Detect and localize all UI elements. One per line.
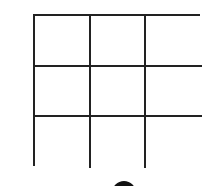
cell-2-1[interactable]: [91, 117, 146, 168]
cell-1-2[interactable]: [146, 67, 202, 117]
cell-1-0[interactable]: [35, 67, 91, 117]
cell-1-1[interactable]: [91, 67, 146, 117]
cell-2-0[interactable]: [35, 117, 91, 168]
cell-0-1[interactable]: [91, 16, 146, 67]
cell-0-0[interactable]: [35, 16, 91, 67]
game-board: [33, 14, 200, 166]
cell-2-2[interactable]: [146, 117, 202, 168]
turn-indicator-circle-icon: [112, 181, 136, 186]
cell-0-2[interactable]: [146, 16, 202, 67]
